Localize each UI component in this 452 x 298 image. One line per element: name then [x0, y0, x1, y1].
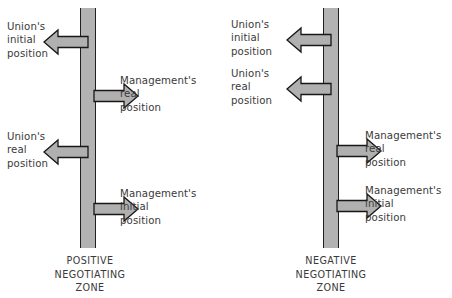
label-union-real-negative: Union's real position [231, 67, 272, 107]
arrow-left-union-real-positive [44, 139, 88, 165]
label-management-real-positive: Management's real position [120, 74, 196, 114]
label-union-initial-positive: Union's initial position [7, 20, 48, 60]
panel-positive-negotiating-zone: Union's initial position Management's re… [0, 0, 226, 298]
label-management-initial-negative: Management's initial position [365, 184, 441, 224]
arrow-left-union-initial-negative [287, 27, 331, 53]
label-management-real-negative: Management's real position [365, 129, 441, 169]
caption-negative-negotiating-zone: NEGATIVE NEGOTIATING ZONE [269, 254, 393, 295]
negotiating-zones-figure: Union's initial position Management's re… [0, 0, 452, 298]
label-management-initial-positive: Management's initial position [120, 187, 196, 227]
arrow-left-union-real-negative [287, 76, 331, 102]
label-union-real-positive: Union's real position [7, 130, 48, 170]
arrow-left-union-initial-positive [44, 29, 88, 55]
caption-positive-negotiating-zone: POSITIVE NEGOTIATING ZONE [28, 254, 152, 295]
label-union-initial-negative: Union's initial position [231, 18, 272, 58]
panel-negative-negotiating-zone: Union's initial position Union's real po… [226, 0, 452, 298]
